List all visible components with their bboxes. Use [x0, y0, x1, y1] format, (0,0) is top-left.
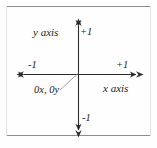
- x-axis-arrowhead-right: [136, 71, 144, 77]
- y-axis-arrowhead-bottom: [75, 130, 81, 138]
- x-axis-positive-one-tick-label: +1: [116, 60, 128, 71]
- x-axis-negative-one-tick-label: -1: [28, 60, 37, 71]
- x-axis-label: x axis: [103, 83, 128, 94]
- coordinate-axes-figure: y axis +1 -1 +1 x axis 0x, 0y -1: [0, 0, 157, 148]
- y-axis-positive-one-tick-label: +1: [80, 27, 92, 38]
- origin-leader-line: [60, 73, 79, 90]
- origin-label: 0x, 0y: [34, 85, 59, 96]
- y-axis-label: y axis: [33, 27, 58, 38]
- y-axis-negative-one-tick-label: -1: [82, 113, 91, 124]
- x-axis-arrowhead-left: [17, 71, 25, 77]
- y-axis-arrowhead-top: [75, 19, 81, 27]
- axes-drawing: [0, 0, 157, 148]
